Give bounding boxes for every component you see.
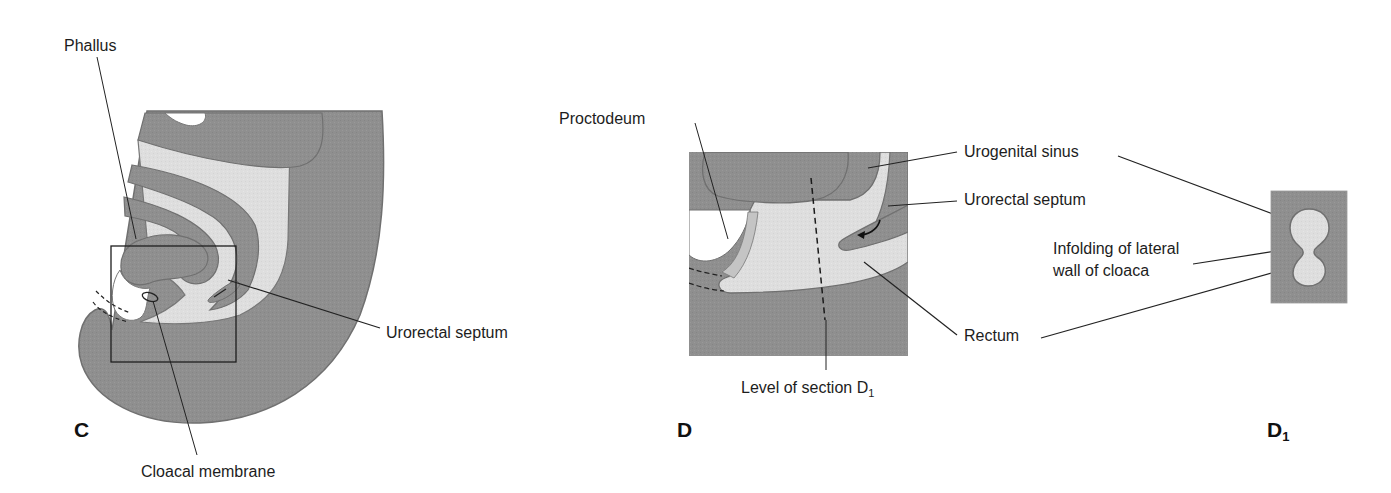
label-infolding-line1: Infolding of lateral <box>1053 240 1179 258</box>
panel-d-drawing <box>689 152 908 356</box>
label-cloacal-membrane: Cloacal membrane <box>141 463 275 481</box>
cloaca-division-figure: Phallus Cloacal membrane Urorectal septu… <box>0 0 1391 493</box>
panel-c-drawing <box>79 57 384 455</box>
panel-letter-c: C <box>74 418 89 442</box>
label-rectum: Rectum <box>964 327 1019 345</box>
panel-letter-d1: D1 <box>1267 418 1289 444</box>
label-level-of-section: Level of section D1 <box>741 379 874 402</box>
panel-letter-d1-subscript: 1 <box>1282 429 1289 444</box>
panel-letter-d: D <box>677 418 692 442</box>
label-infolding-line2: wall of cloaca <box>1053 262 1149 280</box>
level-of-section-subscript: 1 <box>868 387 874 399</box>
figure-drawing <box>0 0 1391 493</box>
label-proctodeum: Proctodeum <box>559 110 645 128</box>
panel-letter-d1-main: D <box>1267 418 1282 441</box>
genital-tubercle-d <box>703 152 849 203</box>
panel-d1-drawing <box>1271 191 1347 303</box>
label-urorectal-septum-c: Urorectal septum <box>386 324 508 342</box>
label-urogenital-sinus: Urogenital sinus <box>964 143 1079 161</box>
label-urorectal-septum-d: Urorectal septum <box>964 191 1086 209</box>
level-of-section-text: Level of section D <box>741 379 868 396</box>
label-phallus: Phallus <box>64 37 116 55</box>
